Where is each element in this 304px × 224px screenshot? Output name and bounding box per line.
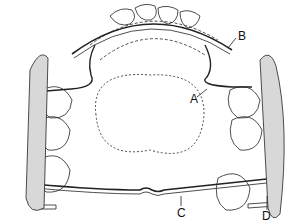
label-b: B xyxy=(238,30,246,42)
label-a: A xyxy=(190,93,198,105)
label-c: C xyxy=(177,207,186,219)
label-d: D xyxy=(262,210,271,222)
dental-appliance-diagram xyxy=(0,0,304,224)
